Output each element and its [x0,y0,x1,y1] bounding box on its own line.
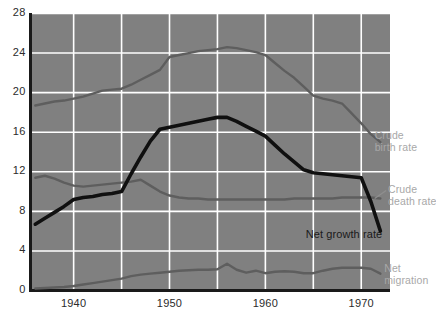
x-tick-1950: 1950 [148,297,192,309]
series-label-net-migration: Net migration [384,262,428,286]
x-tick-1940: 1940 [52,297,96,309]
y-tick-20: 20 [13,85,26,97]
x-tick-1960: 1960 [243,297,287,309]
net-migration-label-line1: Net [384,262,401,274]
crude-death-rate-label-line1: Crude [388,183,417,195]
y-tick-12: 12 [13,164,26,176]
y-tick-16: 16 [13,125,26,137]
series-label-net-growth-rate: Net growth rate [306,228,383,240]
series-label-crude-death-rate: Crude death rate [388,183,436,207]
y-tick-24: 24 [13,46,26,58]
y-tick-4: 4 [19,243,25,255]
net-migration-label-line2: migration [384,274,428,286]
crude-death-rate-label-line2: death rate [388,195,436,207]
y-tick-28: 28 [13,6,26,18]
x-tick-1970: 1970 [339,297,383,309]
y-tick-8: 8 [19,204,25,216]
crude-birth-rate-label-line2: birth rate [375,141,417,153]
y-tick-0: 0 [19,283,25,295]
crude-birth-rate-label-line1: Crude [375,129,404,141]
series-label-crude-birth-rate: Crude birth rate [375,129,417,153]
